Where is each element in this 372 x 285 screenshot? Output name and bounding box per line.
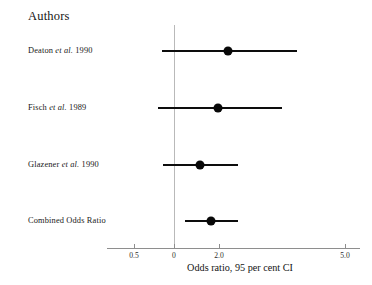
- x-axis-tick-label: 0: [172, 251, 176, 260]
- forest-plot: Authors Deaton et al. 1990Fisch et al. 1…: [0, 0, 372, 285]
- x-axis-tick-label: 5.0: [340, 251, 350, 260]
- study-label: Deaton et al. 1990: [28, 46, 93, 55]
- et-al-italic: et al.: [55, 46, 73, 55]
- odds-ratio-marker: [214, 104, 223, 113]
- x-axis-tick: [345, 244, 346, 248]
- et-al-italic: et al.: [62, 160, 80, 169]
- odds-ratio-marker: [207, 217, 216, 226]
- study-label: Fisch et al. 1989: [28, 103, 86, 112]
- x-axis-line: [107, 248, 360, 249]
- x-axis-tick: [219, 244, 220, 248]
- page-title: Authors: [28, 9, 70, 24]
- x-axis-tick: [134, 244, 135, 248]
- x-axis-title: Odds ratio, 95 per cent CI: [187, 262, 293, 273]
- odds-ratio-marker: [196, 161, 205, 170]
- study-label: Combined Odds Ratio: [28, 216, 106, 225]
- x-axis-tick-label: 0.5: [129, 251, 139, 260]
- reference-line: [174, 25, 175, 248]
- x-axis-tick: [174, 244, 175, 248]
- x-axis-tick-label: 2.0: [214, 251, 224, 260]
- study-label: Glazener et al. 1990: [28, 160, 99, 169]
- odds-ratio-marker: [224, 47, 233, 56]
- et-al-italic: et al.: [49, 103, 67, 112]
